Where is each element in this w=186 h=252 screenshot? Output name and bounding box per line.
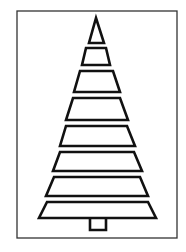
tree-tier-3 (66, 98, 128, 120)
tree-tier-5 (53, 152, 142, 171)
tree-tier-2 (74, 71, 120, 92)
tree-illustration (0, 0, 186, 252)
tree-tier-6 (46, 177, 148, 196)
tree-trunk (90, 218, 106, 230)
picture-frame (17, 11, 177, 238)
tree-top-triangle (89, 18, 104, 43)
tree-tier-1 (82, 48, 110, 65)
tree-tier-4 (60, 126, 135, 146)
tree-tier-7 (39, 202, 156, 218)
